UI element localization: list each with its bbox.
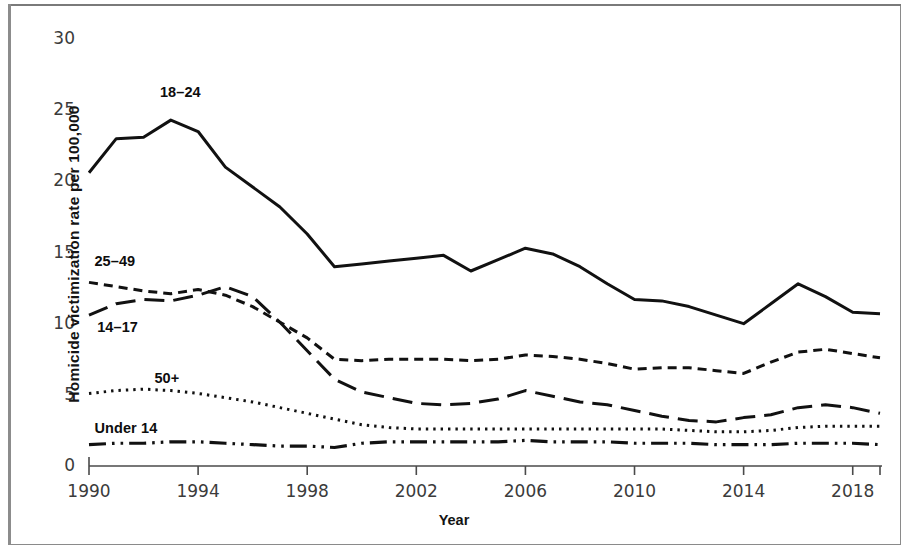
series-label-18-24: 18–24: [160, 84, 201, 100]
plot-canvas: [0, 0, 908, 559]
x-tick-label: 1994: [158, 481, 238, 501]
series-line-25-49: [89, 282, 880, 373]
x-tick-label: 2002: [376, 481, 456, 501]
series-label-under-14: Under 14: [94, 420, 157, 436]
x-tick-label: 2010: [595, 481, 675, 501]
x-tick-label: 2006: [485, 481, 565, 501]
series-label-25-49: 25–49: [94, 253, 135, 269]
y-axis-title: Homicide victimization rate per 100,000: [65, 84, 83, 424]
x-tick-label: 2018: [813, 481, 893, 501]
x-tick-label: 1990: [49, 481, 129, 501]
x-tick-label: 1998: [267, 481, 347, 501]
y-tick-label: 0: [31, 455, 75, 475]
series-line-50-: [89, 389, 880, 432]
line-chart: 051015202530 199019941998200220062010201…: [0, 0, 908, 559]
series-line-under-14: [89, 440, 880, 447]
series-label-50-: 50+: [154, 370, 179, 386]
x-axis-title: Year: [0, 512, 908, 528]
series-label-14-17: 14–17: [97, 319, 138, 335]
series-line-14-17: [89, 287, 880, 422]
y-tick-label: 30: [31, 28, 75, 48]
x-tick-label: 2014: [704, 481, 784, 501]
axes: [89, 457, 882, 475]
chart-page: 051015202530 199019941998200220062010201…: [0, 0, 908, 559]
series-lines: [89, 120, 880, 447]
